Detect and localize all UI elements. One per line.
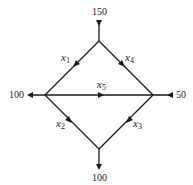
edge-label-x5: x5 [97, 79, 106, 92]
flow-network [0, 0, 193, 185]
edge-x4 [99, 41, 153, 95]
edge-label-x1: x1 [61, 52, 70, 65]
arrow-left-icon [27, 92, 33, 98]
right-flow-label: 50 [176, 90, 186, 100]
arrow-icon [126, 116, 133, 123]
top-flow-label: 150 [92, 7, 107, 17]
edge-label-x3: x3 [133, 118, 142, 131]
arrow-icon [65, 116, 72, 123]
arrow-down-icon [96, 20, 102, 26]
edge-x2 [45, 95, 99, 149]
arrow-left-icon [167, 92, 173, 98]
arrow-down-icon [96, 164, 102, 170]
left-flow-label: 100 [9, 90, 24, 100]
edge-label-x4: x4 [125, 52, 134, 65]
arrow-right-icon [98, 92, 104, 98]
bottom-flow-label: 100 [92, 173, 107, 183]
edge-label-x2: x2 [56, 118, 65, 131]
edge-x1 [45, 41, 99, 95]
edge-x3 [99, 95, 153, 149]
